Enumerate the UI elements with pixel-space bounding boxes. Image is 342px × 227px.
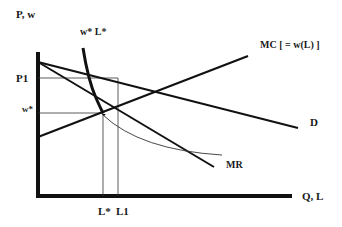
economics-diagram: P, w Q, L w* L* MC [ = w(L) ] D MR P1 w*…: [0, 0, 342, 227]
l1-label: L1: [116, 205, 129, 217]
p1-label: P1: [16, 72, 28, 84]
demand-label: D: [310, 116, 318, 128]
wage-labor-curve: [83, 48, 104, 114]
mr-label: MR: [226, 159, 243, 170]
mc-label: MC [ = w(L) ]: [260, 39, 320, 51]
wage-curve-label: w* L*: [80, 26, 106, 37]
w-star-label: w*: [22, 104, 33, 114]
demand-curve: [38, 62, 298, 128]
thin-curve: [103, 115, 222, 155]
x-axis-label: Q, L: [302, 190, 323, 202]
y-axis-label: P, w: [16, 8, 35, 20]
l-star-label: L*: [98, 205, 111, 217]
